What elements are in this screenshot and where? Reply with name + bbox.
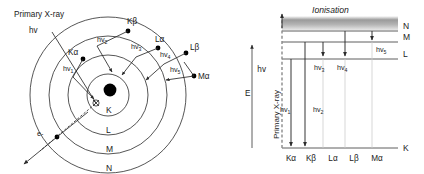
level-label-n: N bbox=[403, 21, 409, 31]
left-photon-hv3: hv3 bbox=[131, 42, 142, 52]
k-alpha-arrow bbox=[73, 77, 94, 99]
right-photon-hv1: hv1 bbox=[280, 105, 291, 115]
ionisation-label: Ionisation bbox=[312, 5, 349, 15]
left-photon-hv4: hv4 bbox=[160, 50, 171, 60]
level-label-m: M bbox=[403, 32, 410, 42]
left-line-label-l-beta: Lβ bbox=[190, 43, 200, 52]
xrf-figure: Primary X-ray hv e- K L M N Kα Kβ Lα Lβ … bbox=[0, 0, 424, 174]
bottom-label-l-alpha: Lα bbox=[328, 154, 338, 163]
right-photon-hv5: hv5 bbox=[376, 45, 387, 55]
m-alpha-seg1 bbox=[184, 62, 194, 76]
level-label-k: K bbox=[403, 143, 409, 153]
right-photon-hv4: hv4 bbox=[337, 63, 348, 73]
nucleus bbox=[104, 84, 117, 97]
left-line-label-l-alpha: Lα bbox=[155, 35, 165, 44]
left-line-label-m-alpha: Mα bbox=[198, 72, 210, 81]
ejected-electron-arrow bbox=[24, 137, 57, 164]
emission-arrows bbox=[291, 31, 372, 146]
m-alpha-arrow bbox=[166, 76, 194, 80]
energy-axis: E bbox=[245, 45, 252, 148]
level-label-l: L bbox=[403, 49, 408, 59]
l-alpha-arrow bbox=[122, 57, 136, 75]
bottom-label-m-alpha: Mα bbox=[371, 154, 383, 163]
column-guides bbox=[323, 42, 372, 148]
right-hv-label: hv bbox=[257, 65, 267, 74]
energy-levels: N M L K bbox=[282, 21, 410, 153]
primary-xray-ray bbox=[52, 32, 96, 103]
primary-xray-label: Primary X-ray bbox=[14, 10, 65, 19]
shell-label-k: K bbox=[106, 105, 112, 115]
l-beta-arrow bbox=[146, 64, 164, 80]
primary-xray-hv-label: hv bbox=[29, 26, 39, 35]
bottom-label-k-beta: Kβ bbox=[306, 154, 316, 163]
bottom-label-k-alpha: Kα bbox=[286, 154, 296, 163]
shell-label-l: L bbox=[106, 125, 111, 135]
k-beta-arrow bbox=[97, 46, 112, 72]
primary-xray-axis: hv Primary X-ray bbox=[257, 14, 282, 148]
vacancy-marker bbox=[93, 100, 99, 106]
bottom-label-l-beta: Lβ bbox=[349, 154, 359, 163]
ejected-electron-backline bbox=[57, 112, 88, 137]
primary-xray-line bbox=[52, 32, 96, 103]
ionisation-band bbox=[282, 16, 398, 30]
ejected-electron-path bbox=[24, 104, 95, 164]
shell-label-m: M bbox=[106, 144, 113, 154]
energy-axis-label: E bbox=[245, 89, 251, 98]
figure-canvas: Primary X-ray hv e- K L M N Kα Kβ Lα Lβ … bbox=[0, 0, 424, 174]
left-photon-hv2: hv2 bbox=[97, 35, 108, 45]
ejected-electron-label: e- bbox=[37, 129, 44, 138]
left-line-label-k-alpha: Kα bbox=[68, 48, 78, 57]
shell-label-n: N bbox=[106, 163, 112, 173]
right-photon-hv2: hv2 bbox=[313, 105, 324, 115]
primary-xray-vertical-label: Primary X-ray bbox=[272, 90, 281, 139]
left-line-label-k-beta: Kβ bbox=[127, 17, 137, 26]
left-photon-hv5: hv5 bbox=[170, 65, 181, 75]
left-photon-hv1: hv1 bbox=[63, 64, 74, 74]
